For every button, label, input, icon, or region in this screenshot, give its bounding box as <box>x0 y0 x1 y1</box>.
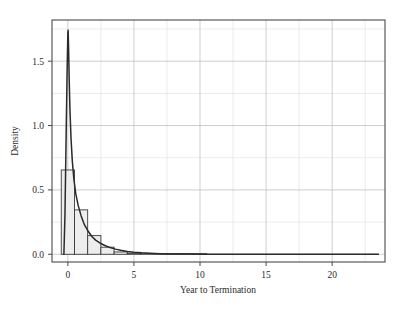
y-tick-label: 1.0 <box>32 121 44 131</box>
x-tick-label: 15 <box>261 270 271 280</box>
chart-canvas: 05101520 0.00.51.01.5 Year to Terminatio… <box>0 0 402 313</box>
plot-background <box>0 0 402 313</box>
x-tick-label: 0 <box>65 270 70 280</box>
x-tick-label: 5 <box>132 270 137 280</box>
y-axis-title: Density <box>10 126 20 156</box>
y-tick-label: 0.5 <box>32 185 44 195</box>
density-plot-figure: 05101520 0.00.51.01.5 Year to Terminatio… <box>0 0 402 313</box>
x-axis-title: Year to Termination <box>180 285 256 295</box>
histogram-bar <box>114 252 127 254</box>
histogram-bar <box>61 170 74 254</box>
y-tick-label: 0.0 <box>32 250 44 260</box>
x-tick-label: 10 <box>195 270 205 280</box>
x-tick-label: 20 <box>327 270 337 280</box>
histogram-bar <box>127 253 140 254</box>
y-tick-label: 1.5 <box>32 57 44 67</box>
